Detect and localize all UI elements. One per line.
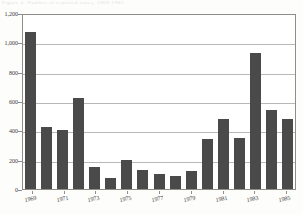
bar: [73, 98, 84, 189]
bar: [282, 119, 293, 189]
y-axis-tick-label: 400: [9, 128, 18, 134]
x-axis-tick-label: 1975: [119, 195, 132, 203]
bar: [218, 119, 229, 189]
bar-series: [23, 15, 295, 189]
x-axis-tick: [223, 191, 224, 194]
bar: [137, 170, 148, 189]
y-axis-tick-label: 0: [15, 187, 18, 193]
bar: [121, 160, 132, 189]
x-axis-tick: [191, 191, 192, 194]
x-axis: 196919711973197519771979198119831985: [22, 191, 296, 215]
x-axis-tick: [286, 191, 287, 194]
x-axis-tick: [254, 191, 255, 194]
x-axis-tick-label: 1977: [151, 195, 164, 203]
x-axis-tick-label: 1983: [246, 195, 259, 203]
y-axis-tick-label: 800: [9, 70, 18, 76]
x-axis-tick: [159, 191, 160, 194]
y-axis-tick-label: 600: [9, 99, 18, 105]
bar: [89, 167, 100, 189]
x-axis-tick-label: 1979: [183, 195, 196, 203]
x-axis-tick-label: 1985: [278, 195, 291, 203]
bar: [105, 178, 116, 189]
bar: [170, 176, 181, 189]
bar: [266, 110, 277, 189]
bar: [57, 130, 68, 189]
x-axis-tick-label: 1969: [24, 195, 37, 203]
y-axis-tick-label: 1,200: [5, 11, 19, 17]
x-axis-tick: [95, 191, 96, 194]
x-axis-tick: [127, 191, 128, 194]
y-axis-tick-label: 1,000: [5, 40, 19, 46]
bar: [25, 32, 36, 189]
x-axis-tick: [32, 191, 33, 194]
bar-chart-figure: Figure 4. Number of reported cases, 1969…: [0, 0, 303, 215]
x-axis-tick-label: 1971: [56, 195, 69, 203]
x-axis-tick: [64, 191, 65, 194]
x-axis-tick-label: 1981: [215, 195, 228, 203]
plot-area: [22, 14, 296, 190]
x-axis-tick-label: 1973: [87, 195, 100, 203]
bar: [250, 53, 261, 189]
bar: [41, 127, 52, 189]
caption-remnant-text: Figure 4. Number of reported cases, 1969…: [2, 0, 232, 5]
y-axis-tick-label: 200: [9, 158, 18, 164]
bar: [186, 171, 197, 189]
bar: [154, 174, 165, 189]
y-axis: 02004006008001,0001,200: [0, 0, 22, 215]
bar: [234, 138, 245, 189]
bar: [202, 139, 213, 189]
